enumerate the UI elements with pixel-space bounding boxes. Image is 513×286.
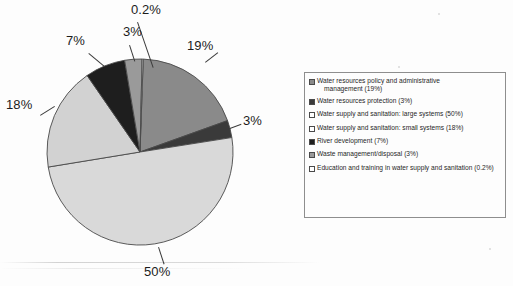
pie-value-label-water-resources-protection: 3% bbox=[243, 113, 262, 128]
legend-label-small-systems: Water supply and sanitation: small syste… bbox=[317, 124, 464, 132]
legend-item: Waste management/disposal (3%) bbox=[309, 150, 502, 158]
pie-value-label-large-systems: 50% bbox=[144, 264, 170, 279]
pie-value-label-education-training: 0.2% bbox=[131, 2, 161, 17]
pie-value-label-waste-management: 3% bbox=[123, 24, 142, 39]
paper-speck bbox=[398, 66, 400, 68]
legend-swatch-river-development bbox=[309, 139, 315, 145]
legend-swatch-water-resources-protection bbox=[309, 99, 315, 105]
legend-item: Water supply and sanitation: large syste… bbox=[309, 110, 502, 118]
legend-label-water-resources-protection: Water resources protection (3%) bbox=[317, 97, 412, 105]
legend-item: Water resources policy and administrativ… bbox=[309, 77, 502, 94]
legend-label-large-systems: Water supply and sanitation: large syste… bbox=[317, 110, 463, 118]
pie-slices bbox=[47, 59, 233, 245]
paper-speck bbox=[489, 248, 491, 250]
legend-item: Water resources protection (3%) bbox=[309, 97, 502, 105]
legend-label-education-training: Education and training in water supply a… bbox=[317, 164, 494, 172]
pie-chart-figure: 19% 3% 50% 18% 7% 3% 0.2% Water resource… bbox=[0, 0, 513, 286]
legend-item: Education and training in water supply a… bbox=[309, 164, 502, 172]
scan-artifact-line bbox=[0, 262, 320, 263]
legend-swatch-waste-management bbox=[309, 152, 315, 158]
pie-chart-graphic bbox=[45, 57, 235, 247]
legend-swatch-large-systems bbox=[309, 112, 315, 118]
pie-value-label-small-systems: 18% bbox=[6, 97, 32, 112]
legend-swatch-water-resources-policy bbox=[309, 79, 315, 85]
scan-artifact-line-secondary bbox=[0, 268, 250, 269]
legend-label-waste-management: Waste management/disposal (3%) bbox=[317, 150, 418, 158]
pie-value-label-river-development: 7% bbox=[66, 33, 85, 48]
legend-label-water-resources-policy: Water resources policy and administrativ… bbox=[317, 77, 440, 94]
legend-swatch-education-training bbox=[309, 166, 315, 172]
legend: Water resources policy and administrativ… bbox=[304, 72, 506, 218]
paper-speck bbox=[438, 13, 440, 15]
pie-value-label-water-resources-policy: 19% bbox=[187, 38, 213, 53]
legend-item: Water supply and sanitation: small syste… bbox=[309, 124, 502, 132]
legend-label-river-development: River development (7%) bbox=[317, 137, 388, 145]
legend-item: River development (7%) bbox=[309, 137, 502, 145]
pie-svg bbox=[45, 57, 235, 247]
legend-swatch-small-systems bbox=[309, 126, 315, 132]
